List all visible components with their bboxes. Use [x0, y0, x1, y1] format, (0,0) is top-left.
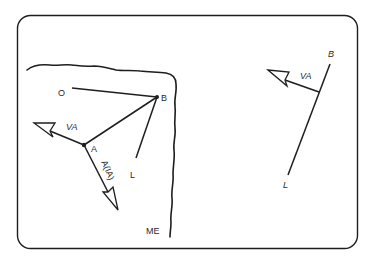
label-a: A — [91, 144, 97, 154]
label-l-right: L — [283, 180, 288, 190]
point-b — [155, 95, 159, 99]
label-a-ia: A(IA) — [99, 159, 116, 182]
diagram-canvas: O B VA A L A(IA) ME B VA L — [0, 0, 373, 265]
line-b-a — [84, 97, 157, 145]
line-b-l — [136, 97, 157, 158]
label-b-right: B — [328, 49, 334, 59]
label-va-left: VA — [66, 122, 78, 132]
label-o: O — [58, 88, 65, 98]
frame-border — [18, 16, 358, 249]
label-l-left: L — [130, 170, 135, 180]
label-va-right: VA — [300, 71, 312, 81]
label-b: B — [161, 93, 167, 103]
line-o-b — [72, 88, 157, 97]
label-me: ME — [146, 226, 160, 236]
